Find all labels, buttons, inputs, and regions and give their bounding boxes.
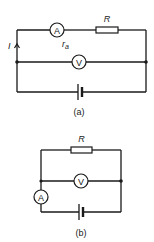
- resistor-b: R: [71, 134, 92, 153]
- battery-a: [78, 84, 82, 100]
- resistor-label: R: [78, 134, 85, 144]
- circuit-a: A R V I ra (a): [8, 14, 148, 117]
- junction-node: [119, 179, 123, 183]
- caption-a: (a): [74, 107, 85, 117]
- ammeter-label: A: [54, 26, 60, 36]
- resistor-label: R: [104, 14, 111, 24]
- caption-b: (b): [76, 228, 87, 238]
- voltmeter-label: V: [78, 177, 84, 187]
- ammeter-a: A: [50, 23, 64, 37]
- current-label: I: [8, 41, 11, 51]
- circuit-b: R V A (b): [34, 134, 123, 238]
- ammeter-label: A: [38, 193, 44, 203]
- voltmeter-a: V: [72, 55, 86, 69]
- battery-b: [79, 204, 83, 220]
- voltmeter-label: V: [76, 58, 82, 68]
- junction-node: [39, 179, 42, 182]
- ammeter-b: A: [34, 190, 48, 204]
- voltmeter-b: V: [74, 174, 88, 188]
- junction-node: [15, 60, 19, 64]
- ammeter-resistance-label: ra: [62, 39, 69, 50]
- junction-node: [144, 60, 148, 64]
- circuit-diagrams: A R V I ra (a): [0, 0, 154, 242]
- resistor-a: R: [96, 14, 118, 33]
